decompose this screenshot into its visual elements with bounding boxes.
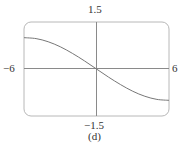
y-max-label: 1.5 <box>88 4 102 15</box>
caption-label: (d) <box>88 131 101 142</box>
x-max-label: 6 <box>172 63 178 74</box>
x-min-label: −6 <box>3 63 15 74</box>
